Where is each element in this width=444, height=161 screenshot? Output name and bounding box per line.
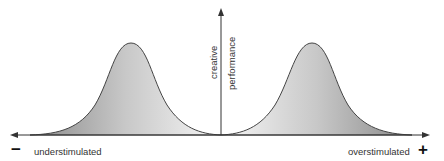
left-arrowhead-icon (10, 132, 18, 138)
right-arrowhead-icon (422, 132, 430, 138)
up-arrowhead-icon (218, 8, 224, 16)
y-axis-label-creative: creative (208, 46, 219, 79)
plus-icon: + (418, 141, 428, 158)
understimulated-label: understimulated (34, 146, 102, 157)
left-bell-curve (30, 43, 221, 135)
overstimulated-label: overstimulated (348, 146, 410, 157)
y-axis-label-performance: performance (226, 37, 237, 90)
minus-icon: − (11, 141, 21, 158)
stimulation-performance-diagram (0, 0, 444, 161)
right-bell-curve (221, 43, 412, 135)
